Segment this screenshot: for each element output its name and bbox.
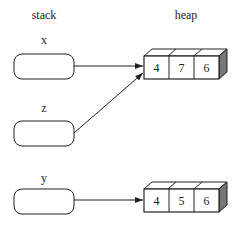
heap-header: heap bbox=[175, 8, 198, 22]
stack-heap-diagram: stack heap x z y 4 7 6 4 5 6 bbox=[0, 0, 235, 226]
stack-slot-x bbox=[14, 54, 74, 79]
stack-header: stack bbox=[32, 8, 57, 22]
heap-array-1: 4 7 6 bbox=[144, 49, 227, 79]
stack-slot-y bbox=[14, 189, 74, 214]
heap-cell: 5 bbox=[179, 194, 185, 208]
pointer-arrow-z bbox=[74, 73, 143, 133]
heap-cell: 4 bbox=[154, 194, 160, 208]
stack-var-label-z: z bbox=[41, 101, 46, 115]
heap-cell: 7 bbox=[179, 61, 185, 75]
heap-cell: 6 bbox=[204, 61, 210, 75]
stack-var-label-x: x bbox=[41, 33, 47, 47]
heap-cell: 4 bbox=[154, 61, 160, 75]
stack-slot-z bbox=[14, 121, 74, 146]
heap-cell: 6 bbox=[204, 194, 210, 208]
heap-array-2: 4 5 6 bbox=[144, 182, 227, 212]
stack-var-label-y: y bbox=[41, 171, 47, 185]
